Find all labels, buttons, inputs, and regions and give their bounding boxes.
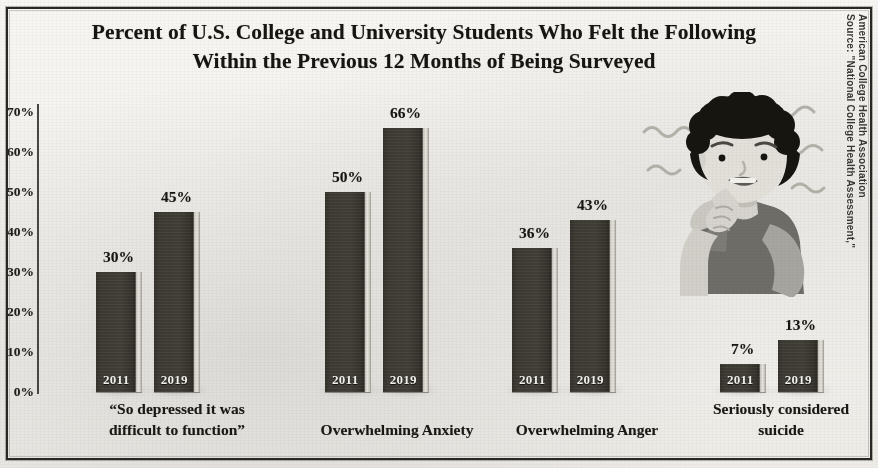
bar-value-label: 36% [519,224,550,242]
bar-2019-3[interactable]: 201943% [570,220,616,392]
category-label-line: “So depressed it was [52,398,302,419]
y-axis-tick-70: 70% [0,104,34,120]
bar-rect [512,248,558,392]
y-axis-tick-labels: 0%10%20%30%40%50%60%70% [0,0,34,468]
category-label-4: Seriously consideredsuicide [672,398,878,440]
bar-value-label: 43% [577,196,608,214]
bar-value-label: 66% [390,104,421,122]
bar-year-label: 2011 [325,372,365,388]
bar-rect [570,220,616,392]
chart-page: Percent of U.S. College and University S… [0,0,878,468]
y-axis-tick-10: 10% [0,344,34,360]
bar-2019-2[interactable]: 201966% [383,128,429,392]
category-label-line: difficult to function” [52,419,302,440]
bar-year-label: 2019 [154,372,194,388]
bar-year-label: 2019 [383,372,423,388]
y-axis-tick-0: 0% [0,384,34,400]
y-axis-tick-20: 20% [0,304,34,320]
bar-rect [154,212,200,392]
bar-2019-4[interactable]: 201913% [778,340,824,392]
bar-group-2: 201150%201966% [325,391,429,392]
bar-year-label: 2011 [512,372,552,388]
y-axis-tick-40: 40% [0,224,34,240]
bar-2011-1[interactable]: 201130% [96,272,142,392]
bar-rect [383,128,429,392]
bar-2011-3[interactable]: 201136% [512,248,558,392]
bar-value-label: 45% [161,188,192,206]
bar-year-label: 2011 [96,372,136,388]
y-axis-tick-50: 50% [0,184,34,200]
bar-value-label: 7% [731,340,754,358]
bar-rect [325,192,371,392]
bar-group-4: 20117%201913% [720,391,824,392]
bar-year-label: 2019 [778,372,818,388]
bar-year-label: 2011 [720,372,760,388]
category-label-line: suicide [672,419,878,440]
y-axis-tick-60: 60% [0,144,34,160]
bar-2011-4[interactable]: 20117% [720,364,766,392]
y-axis-tick-30: 30% [0,264,34,280]
bar-group-3: 201136%201943% [512,391,616,392]
anxious-student-illustration [642,92,842,297]
bar-2011-2[interactable]: 201150% [325,192,371,392]
category-label-1: “So depressed it wasdifficult to functio… [52,398,302,440]
bar-2019-1[interactable]: 201945% [154,212,200,392]
category-label-line: Seriously considered [672,398,878,419]
bar-year-label: 2019 [570,372,610,388]
bar-value-label: 13% [785,316,816,334]
bar-group-1: 201130%201945% [96,391,200,392]
bar-value-label: 50% [332,168,363,186]
bar-value-label: 30% [103,248,134,266]
y-axis-line [37,104,39,394]
